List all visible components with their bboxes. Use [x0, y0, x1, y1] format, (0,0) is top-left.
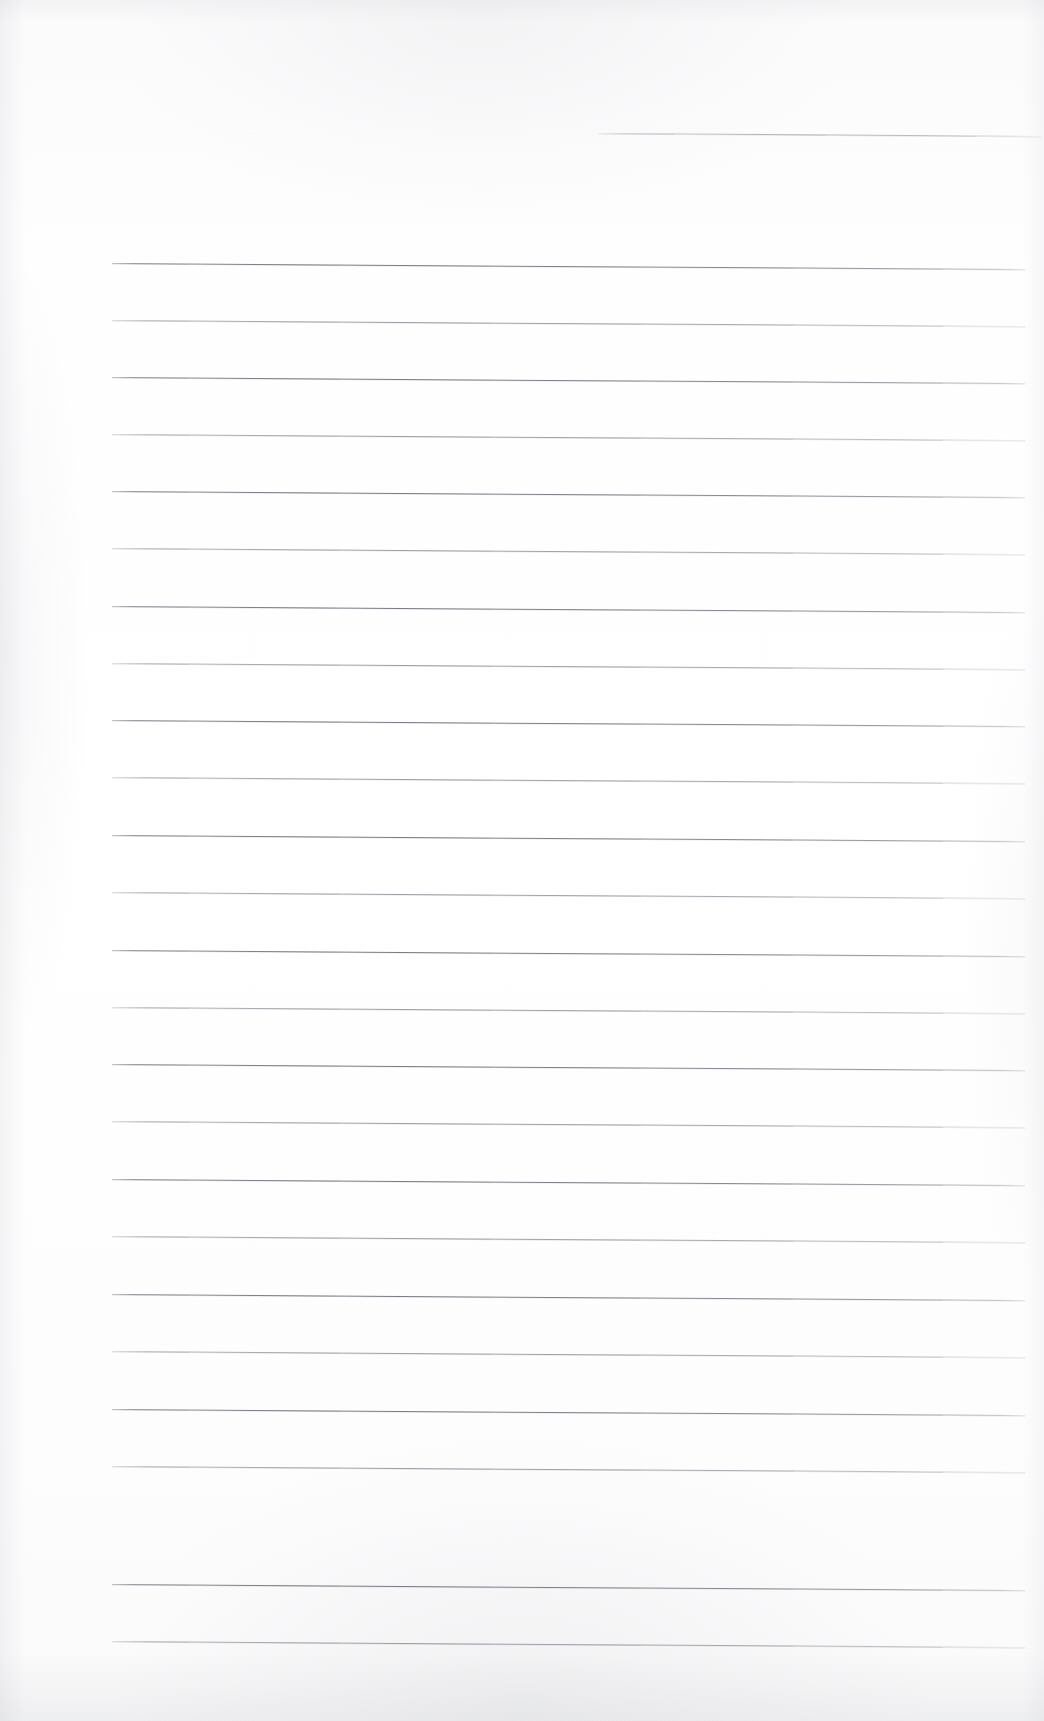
ruled-line: [112, 491, 1025, 498]
ruled-line: [112, 1584, 1025, 1591]
ruled-line: [112, 1351, 1025, 1358]
ruled-line: [112, 434, 1025, 441]
ruled-line: [112, 720, 1025, 727]
ruled-line: [112, 777, 1025, 784]
ruled-line: [598, 133, 1041, 137]
ruled-line: [112, 1007, 1025, 1014]
ruled-line: [112, 1236, 1025, 1243]
ruled-line: [112, 892, 1025, 899]
ruled-line: [112, 606, 1025, 613]
ruled-lines-layer: [0, 0, 1044, 1721]
ruled-line: [112, 263, 1025, 270]
ruled-line: [112, 835, 1025, 842]
ruled-line: [112, 1409, 1025, 1416]
ruled-line: [112, 1121, 1025, 1128]
ruled-line: [112, 663, 1025, 670]
ruled-line: [112, 1064, 1025, 1071]
ruled-line: [112, 1179, 1025, 1186]
ruled-line: [112, 1641, 1025, 1648]
ruled-line: [112, 320, 1025, 327]
ruled-line: [112, 1294, 1025, 1301]
scanned-page: [0, 0, 1044, 1721]
ruled-line: [112, 377, 1025, 384]
ruled-line: [112, 950, 1025, 957]
ruled-line: [112, 548, 1025, 555]
ruled-line: [112, 1466, 1025, 1473]
